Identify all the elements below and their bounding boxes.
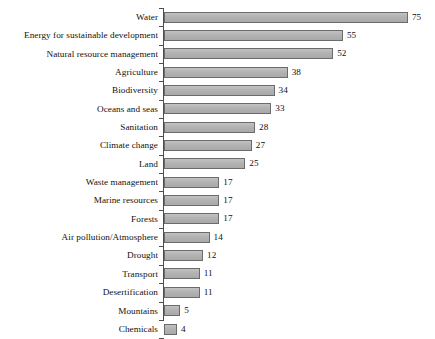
bar-container: 25 bbox=[164, 155, 259, 173]
bar-value-label: 5 bbox=[184, 305, 189, 316]
bar-container: 17 bbox=[164, 191, 232, 209]
bar-row: Air pollution/Atmosphere14 bbox=[0, 228, 435, 246]
bar-row: Biodiversity34 bbox=[0, 81, 435, 99]
bar-row: Mountains5 bbox=[0, 302, 435, 320]
category-label: Agriculture bbox=[115, 63, 163, 81]
bar bbox=[164, 232, 210, 243]
bar-container: 14 bbox=[164, 228, 223, 246]
bar-row: Energy for sustainable development55 bbox=[0, 26, 435, 44]
category-label: Chemicals bbox=[119, 320, 163, 338]
bar-container: 27 bbox=[164, 136, 265, 154]
bar-value-label: 55 bbox=[347, 30, 356, 41]
category-label: Drought bbox=[127, 246, 163, 264]
category-label: Natural resource management bbox=[46, 45, 163, 63]
category-label: Waste management bbox=[86, 173, 163, 191]
bar-container: 17 bbox=[164, 173, 232, 191]
category-label: Water bbox=[136, 8, 163, 26]
bar-value-label: 11 bbox=[204, 287, 213, 298]
bar-value-label: 4 bbox=[181, 324, 186, 335]
bar-container: 17 bbox=[164, 210, 232, 228]
category-label: Energy for sustainable development bbox=[24, 26, 163, 44]
bar-container: 33 bbox=[164, 100, 285, 118]
bar bbox=[164, 67, 288, 78]
category-label: Mountains bbox=[118, 302, 163, 320]
bar-value-label: 38 bbox=[292, 67, 301, 78]
bar bbox=[164, 103, 271, 114]
category-label: Climate change bbox=[100, 136, 163, 154]
bar bbox=[164, 177, 219, 188]
bar bbox=[164, 122, 255, 133]
bar-row: Drought12 bbox=[0, 246, 435, 264]
bar bbox=[164, 305, 180, 316]
bar-value-label: 34 bbox=[279, 85, 288, 96]
bar-row: Land25 bbox=[0, 155, 435, 173]
bar bbox=[164, 48, 333, 59]
bar-container: 11 bbox=[164, 265, 213, 283]
bar bbox=[164, 30, 343, 41]
bar-container: 34 bbox=[164, 81, 288, 99]
bar-container: 55 bbox=[164, 26, 356, 44]
bar-row: Sanitation28 bbox=[0, 118, 435, 136]
bar-row: Waste management17 bbox=[0, 173, 435, 191]
bar-value-label: 14 bbox=[214, 232, 223, 243]
bar-row: Natural resource management52 bbox=[0, 45, 435, 63]
bar-value-label: 11 bbox=[204, 268, 213, 279]
bar-value-label: 12 bbox=[207, 250, 216, 261]
bar-row: Climate change27 bbox=[0, 136, 435, 154]
bar bbox=[164, 287, 200, 298]
bar-value-label: 25 bbox=[249, 158, 258, 169]
bar-value-label: 17 bbox=[223, 195, 232, 206]
category-label: Forests bbox=[131, 210, 163, 228]
category-label: Air pollution/Atmosphere bbox=[62, 228, 163, 246]
bar bbox=[164, 195, 219, 206]
bar-container: 28 bbox=[164, 118, 268, 136]
bar-row: Marine resources17 bbox=[0, 191, 435, 209]
bar-container: 4 bbox=[164, 320, 186, 338]
bar-row: Chemicals4 bbox=[0, 320, 435, 338]
bar bbox=[164, 85, 275, 96]
bar-row: Oceans and seas33 bbox=[0, 100, 435, 118]
bar-value-label: 75 bbox=[412, 12, 421, 23]
category-label: Oceans and seas bbox=[97, 100, 163, 118]
bar-value-label: 27 bbox=[256, 140, 265, 151]
bar-value-label: 17 bbox=[223, 177, 232, 188]
bar-value-label: 33 bbox=[275, 103, 284, 114]
bar-container: 11 bbox=[164, 283, 213, 301]
bar-container: 38 bbox=[164, 63, 301, 81]
category-label: Land bbox=[139, 155, 163, 173]
bar-container: 5 bbox=[164, 302, 189, 320]
bar bbox=[164, 250, 203, 261]
category-label: Biodiversity bbox=[112, 81, 163, 99]
bar-row: Agriculture38 bbox=[0, 63, 435, 81]
category-label: Marine resources bbox=[94, 191, 163, 209]
bar-container: 52 bbox=[164, 45, 346, 63]
bar bbox=[164, 268, 200, 279]
bar-row: Transport11 bbox=[0, 265, 435, 283]
bar-row: Desertification11 bbox=[0, 283, 435, 301]
bar bbox=[164, 324, 177, 335]
bar-rows: Water75Energy for sustainable developmen… bbox=[0, 8, 435, 338]
bar-container: 75 bbox=[164, 8, 421, 26]
bar bbox=[164, 213, 219, 224]
bar-value-label: 28 bbox=[259, 122, 268, 133]
bar bbox=[164, 140, 252, 151]
bar bbox=[164, 12, 408, 23]
bar-container: 12 bbox=[164, 246, 216, 264]
bar-row: Water75 bbox=[0, 8, 435, 26]
bar-row: Forests17 bbox=[0, 210, 435, 228]
bar-value-label: 52 bbox=[337, 48, 346, 59]
category-label: Desertification bbox=[103, 283, 163, 301]
bar-value-label: 17 bbox=[223, 213, 232, 224]
category-label: Sanitation bbox=[120, 118, 163, 136]
bar bbox=[164, 158, 245, 169]
category-label: Transport bbox=[122, 265, 163, 283]
